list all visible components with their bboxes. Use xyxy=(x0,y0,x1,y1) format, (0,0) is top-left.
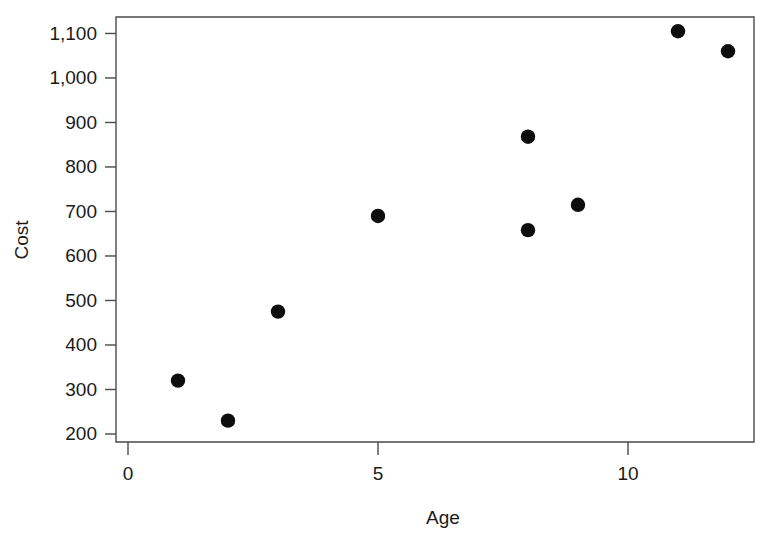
plot-canvas: 2003004005006007008009001,0001,100 0510 … xyxy=(0,0,769,542)
x-tick-label: 5 xyxy=(373,463,384,484)
y-tick-label: 200 xyxy=(65,423,97,444)
y-tick-label: 400 xyxy=(65,334,97,355)
data-point xyxy=(521,223,535,237)
scatter-chart: 2003004005006007008009001,0001,100 0510 … xyxy=(0,0,769,542)
data-point xyxy=(171,373,185,387)
y-tick-label: 1,000 xyxy=(49,67,97,88)
x-axis-title: Age xyxy=(426,507,460,528)
data-point xyxy=(521,130,535,144)
data-point xyxy=(271,304,285,318)
y-tick-label: 900 xyxy=(65,112,97,133)
x-tick-label: 0 xyxy=(123,463,134,484)
y-tick-label: 600 xyxy=(65,245,97,266)
data-point xyxy=(571,198,585,212)
data-point xyxy=(371,209,385,223)
y-tick-label: 1,100 xyxy=(49,23,97,44)
y-tick-label: 500 xyxy=(65,290,97,311)
data-point xyxy=(221,413,235,427)
x-tick-label: 10 xyxy=(617,463,638,484)
y-tick-label: 700 xyxy=(65,201,97,222)
y-tick-label: 300 xyxy=(65,379,97,400)
y-axis-title: Cost xyxy=(11,220,32,260)
y-tick-label: 800 xyxy=(65,156,97,177)
data-point xyxy=(721,44,735,58)
data-point xyxy=(671,24,685,38)
